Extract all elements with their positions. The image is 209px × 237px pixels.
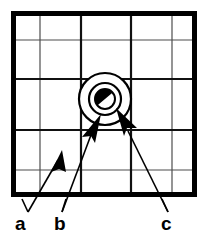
annotation-label-b: b: [54, 213, 66, 234]
annotation-label-c: c: [161, 213, 172, 234]
figure-canvas: a b c: [0, 0, 209, 237]
annotation-label-a: a: [15, 213, 26, 234]
figure-container: a b c: [0, 0, 209, 237]
